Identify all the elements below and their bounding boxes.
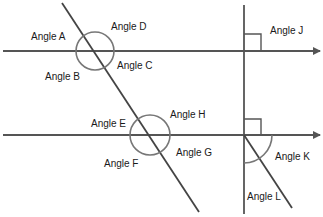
diagram-svg: Angle A Angle D Angle B Angle C Angle E … (0, 0, 323, 217)
label-angle-k: Angle K (275, 151, 310, 162)
angle-arc-k-l (244, 135, 272, 163)
label-angle-d: Angle D (111, 21, 147, 32)
right-angle-marker-j (244, 34, 261, 51)
right-angle-marker-bottom (244, 119, 261, 135)
transversal-diagonal-line (62, 3, 199, 212)
label-angle-f: Angle F (104, 158, 138, 169)
label-angle-j: Angle J (270, 25, 303, 36)
label-angle-b: Angle B (45, 71, 80, 82)
label-angle-c: Angle C (117, 60, 153, 71)
label-angle-g: Angle G (176, 147, 212, 158)
label-angle-a: Angle A (31, 31, 66, 42)
label-angle-h: Angle H (170, 109, 206, 120)
angles-diagram: Angle A Angle D Angle B Angle C Angle E … (0, 0, 323, 217)
label-angle-l: Angle L (247, 191, 281, 202)
label-angle-e: Angle E (91, 118, 126, 129)
